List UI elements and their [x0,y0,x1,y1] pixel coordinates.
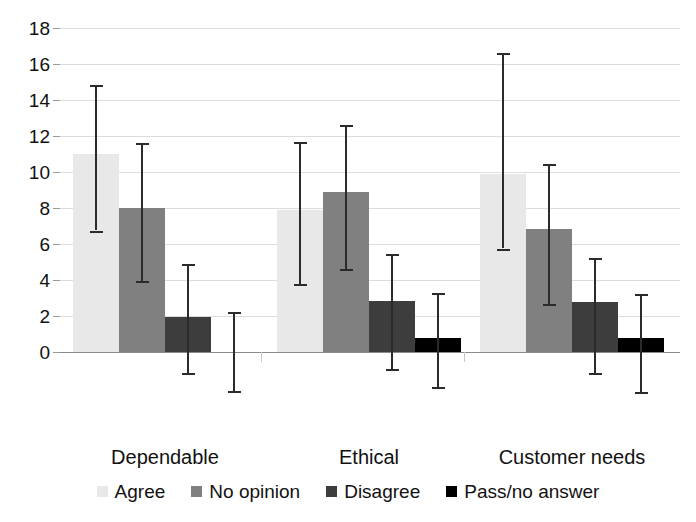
legend-label: Pass/no answer [464,482,599,501]
y-axis-tick-label: 0 [39,343,50,362]
legend-label: No opinion [209,482,300,501]
error-bar-cap-lower [635,392,648,394]
y-axis-tick [53,352,60,353]
error-bar [391,254,393,369]
legend-item-pass[interactable]: Pass/no answer [446,482,599,501]
y-axis-tick-label: 8 [39,199,50,218]
error-bar [640,294,642,392]
y-axis-tick-label: 16 [29,55,50,74]
y-axis-tick-label: 6 [39,235,50,254]
y-axis-tick [53,244,60,245]
y-axis-tick-label: 18 [29,19,50,38]
error-bar-cap-upper [182,264,195,266]
gridline [60,64,680,65]
y-axis-tick-labels: 024681012141618 [0,28,50,406]
error-bar [187,264,189,373]
error-bar-cap-upper [543,164,556,166]
y-axis-tick [53,64,60,65]
error-bar [233,312,235,390]
error-bar-cap-upper [432,293,445,295]
category-label-1: Ethical [339,447,399,467]
legend-item-noopinion[interactable]: No opinion [191,482,300,501]
legend-label: Disagree [344,482,420,501]
category-label-0: Dependable [111,447,219,467]
y-axis-tick-label: 10 [29,163,50,182]
error-bar-cap-lower [136,281,149,283]
error-bar-cap-upper [228,312,241,314]
y-axis-tick [53,208,60,209]
error-bar [594,258,596,373]
error-bar-cap-lower [543,304,556,306]
legend-swatch-icon [191,486,202,497]
gridline [60,172,680,173]
error-bar-cap-lower [294,284,307,286]
error-bar-cap-lower [432,387,445,389]
error-bar-cap-lower [589,373,602,375]
y-axis-tick-label: 2 [39,307,50,326]
y-axis-tick [53,100,60,101]
gridline [60,28,680,29]
y-axis-tick [53,172,60,173]
y-axis-tick-label: 4 [39,271,50,290]
legend-label: Agree [115,482,166,501]
error-bar-cap-lower [90,231,103,233]
gridline [60,136,680,137]
y-axis-tick [53,316,60,317]
error-bar-cap-lower [386,369,399,371]
category-separator [464,352,465,362]
error-bar-cap-upper [386,254,399,256]
error-bar [299,142,301,283]
legend-swatch-icon [97,486,108,497]
error-bar-cap-upper [136,143,149,145]
gridline [60,100,680,101]
error-bar-cap-lower [228,391,241,393]
error-bar-cap-upper [294,142,307,144]
category-label-2: Customer needs [499,447,646,467]
error-bar-cap-lower [340,269,353,271]
error-bar [95,85,97,231]
error-bar [345,125,347,269]
bar-chart: 024681012141618 DependableEthicalCustome… [0,0,696,522]
y-axis-tick-label: 14 [29,91,50,110]
legend-item-agree[interactable]: Agree [97,482,166,501]
chart-legend: AgreeNo opinionDisagreePass/no answer [0,482,696,501]
error-bar-cap-upper [90,85,103,87]
error-bar-cap-upper [635,294,648,296]
category-separator [261,352,262,362]
error-bar [548,164,550,304]
y-axis-tick [53,28,60,29]
y-axis-tick-label: 12 [29,127,50,146]
y-axis-tick [53,136,60,137]
error-bar [502,53,504,248]
error-bar-cap-upper [589,258,602,260]
error-bar-cap-upper [497,53,510,55]
error-bar [437,293,439,388]
error-bar [141,143,143,281]
legend-item-disagree[interactable]: Disagree [326,482,420,501]
y-axis-tick [53,280,60,281]
error-bar-cap-lower [497,249,510,251]
error-bar-cap-lower [182,373,195,375]
plot-area [60,28,680,406]
error-bar-cap-upper [340,125,353,127]
zero-axis-line [60,352,680,353]
legend-swatch-icon [446,486,457,497]
legend-swatch-icon [326,486,337,497]
